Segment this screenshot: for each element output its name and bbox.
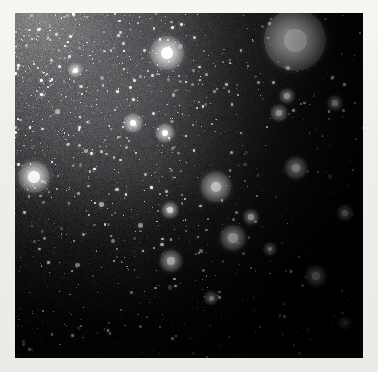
bright-star-halo [242, 208, 260, 226]
sky-field [15, 13, 363, 358]
bright-star-core [292, 164, 300, 172]
bright-star-core [268, 247, 273, 252]
bright-star-halo [337, 315, 353, 331]
bright-star-halo [278, 87, 296, 105]
bright-star-core [28, 171, 39, 182]
bright-star-halo [283, 155, 309, 181]
bright-star-halo [326, 94, 344, 112]
bright-star-layer [15, 13, 363, 358]
bright-star-core [211, 182, 222, 193]
bright-star-core [276, 110, 282, 116]
bright-star-halo [154, 122, 176, 144]
bright-star-core [343, 321, 348, 326]
bright-star-halo [15, 158, 53, 196]
bright-star-core [228, 233, 237, 242]
bright-star-core [342, 210, 348, 216]
bright-star-halo [262, 241, 278, 257]
bright-star-halo [160, 200, 180, 220]
bright-star-core [167, 257, 175, 265]
bright-star-halo [67, 62, 83, 78]
bright-star-core [312, 272, 319, 279]
bright-star-core [167, 207, 173, 213]
bright-star-halo [261, 13, 329, 74]
bright-star-halo [198, 169, 234, 205]
bright-star-core [161, 47, 173, 59]
bright-star-core [73, 68, 78, 73]
star-field-page: dense Milky Way star field with bright g… [0, 0, 378, 372]
bright-star-core [332, 100, 337, 105]
bright-star-halo [122, 112, 144, 134]
bright-star-halo [336, 204, 354, 222]
bright-star-halo [304, 264, 328, 288]
bright-star-core [130, 120, 137, 127]
bright-star-halo [147, 33, 187, 73]
bright-star-core [248, 214, 253, 219]
bright-star-halo [203, 290, 219, 306]
bright-star-core [162, 130, 169, 137]
bright-star-core [284, 93, 289, 98]
bright-star-halo [269, 103, 289, 123]
bright-star-core [284, 29, 307, 52]
bright-star-halo [218, 223, 248, 253]
bright-star-halo [158, 248, 184, 274]
bright-star-core [209, 296, 214, 301]
